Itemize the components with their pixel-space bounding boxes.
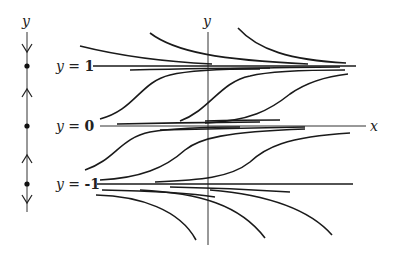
near-equilibrium-0 — [117, 120, 305, 130]
phase-line: y — [21, 13, 32, 212]
curves-between-neg1-and-0 — [85, 127, 350, 182]
y-axis-label: y — [202, 13, 212, 29]
equilibrium-dot-1 — [24, 63, 29, 68]
phase-line-y-label: y — [21, 13, 31, 29]
curves-below-neg1 — [96, 187, 332, 240]
curves-above-1 — [80, 28, 346, 64]
x-axis-label: x — [370, 118, 378, 134]
slope-field-diagram: y y = 1 y = 0 y = -1 y x — [0, 0, 399, 257]
label-y-equals-neg1: y = -1 — [55, 176, 100, 192]
curves-between-0-and-1 — [100, 69, 348, 123]
label-y-equals-1: y = 1 — [55, 58, 94, 74]
equilibrium-dot-neg1 — [24, 181, 29, 186]
equilibrium-dot-0 — [24, 123, 29, 128]
label-y-equals-0: y = 0 — [55, 118, 95, 134]
